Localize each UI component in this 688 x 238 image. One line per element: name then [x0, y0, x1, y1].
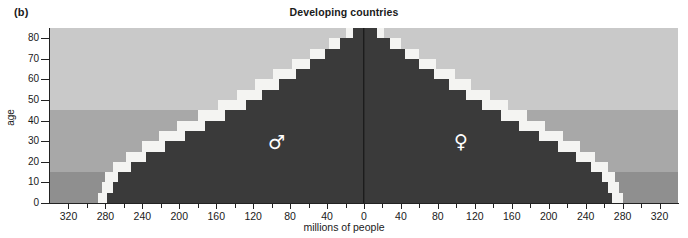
y-axis-tick: [41, 121, 49, 122]
y-axis-tick: [41, 203, 49, 204]
pyramid-bar-current: [364, 172, 602, 182]
x-axis-tick: [327, 203, 328, 209]
pyramid-bar-current: [364, 193, 612, 203]
x-axis-tick: [512, 203, 513, 209]
population-pyramid-figure: (b) Developing countries ♂ ♀ 01020304050…: [0, 0, 688, 238]
pyramid-bar-current: [364, 69, 434, 79]
x-axis-tick: [475, 203, 476, 209]
x-axis-tick: [438, 203, 439, 209]
x-axis-tick: [272, 203, 273, 208]
chart-title: Developing countries: [0, 6, 688, 18]
x-axis-tick: [124, 203, 125, 208]
x-axis-tick: [419, 203, 420, 208]
y-axis-tick-label: 70: [13, 53, 39, 64]
pyramid-bar-current: [364, 100, 482, 110]
center-axis-line: [363, 28, 364, 203]
pyramid-bar-current: [364, 90, 466, 100]
pyramid-bar-current: [364, 59, 419, 69]
x-axis-tick: [87, 203, 88, 208]
pyramid-bar-current: [364, 162, 591, 172]
y-axis-tick-label: 60: [13, 73, 39, 84]
x-axis-tick: [549, 203, 550, 209]
y-axis-tick-label: 0: [13, 197, 39, 208]
x-axis-tick: [105, 203, 106, 209]
x-axis-tick: [401, 203, 402, 209]
x-axis-tick: [309, 203, 310, 208]
x-axis-tick: [493, 203, 494, 208]
x-axis-tick: [216, 203, 217, 209]
x-axis-tick: [198, 203, 199, 208]
pyramid-bar-current: [364, 38, 390, 48]
x-axis-tick: [660, 203, 661, 209]
x-axis-tick: [586, 203, 587, 209]
pyramid-bar-current: [364, 110, 501, 120]
y-axis-tick: [41, 141, 49, 142]
y-axis-tick: [41, 59, 49, 60]
pyramid-bar-current: [364, 131, 539, 141]
y-axis-tick: [41, 182, 49, 183]
x-axis-tick: [604, 203, 605, 208]
x-axis-title: millions of people: [0, 221, 688, 233]
y-axis-tick-label: 30: [13, 135, 39, 146]
x-axis-tick: [382, 203, 383, 208]
plot-area: ♂ ♀: [50, 28, 678, 203]
y-axis-tick-label: 40: [13, 115, 39, 126]
y-axis-title: age: [5, 98, 16, 138]
pyramid-bar-current: [364, 28, 377, 38]
y-axis-line: [49, 28, 50, 204]
pyramid-bar-current: [364, 79, 449, 89]
x-axis-tick: [179, 203, 180, 209]
x-axis-tick: [456, 203, 457, 208]
pyramid-bar-current: [364, 49, 405, 59]
y-axis-tick-label: 50: [13, 94, 39, 105]
x-axis-tick: [235, 203, 236, 208]
male-symbol-icon: ♂: [268, 133, 285, 152]
x-axis-tick: [567, 203, 568, 208]
x-axis-tick: [641, 203, 642, 208]
y-axis-tick-label: 10: [13, 176, 39, 187]
pyramid-bar-current: [364, 121, 519, 131]
x-axis-tick: [142, 203, 143, 209]
x-axis-tick: [161, 203, 162, 208]
y-axis-tick: [41, 38, 49, 39]
pyramid-bar-current: [364, 182, 608, 192]
x-axis-tick: [253, 203, 254, 209]
x-axis-tick: [68, 203, 69, 209]
y-axis-tick: [41, 79, 49, 80]
y-axis-tick-label: 20: [13, 156, 39, 167]
x-axis-tick: [530, 203, 531, 208]
x-axis-tick: [290, 203, 291, 209]
y-axis-tick: [41, 100, 49, 101]
x-axis-tick: [346, 203, 347, 208]
y-axis-tick-label: 80: [13, 32, 39, 43]
pyramid-bar-current: [364, 152, 576, 162]
x-axis-tick: [623, 203, 624, 209]
female-symbol-icon: ♀: [454, 132, 468, 151]
y-axis-tick: [41, 162, 49, 163]
x-axis-tick: [364, 203, 365, 209]
